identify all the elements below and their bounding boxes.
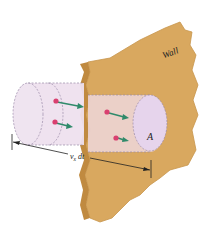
current-diagram: A vx dt Wall — [0, 0, 215, 231]
cylinder-back-cap — [13, 83, 43, 145]
area-end-cap — [133, 95, 167, 151]
length-label: vx dt — [70, 152, 85, 162]
area-label: A — [146, 131, 154, 142]
